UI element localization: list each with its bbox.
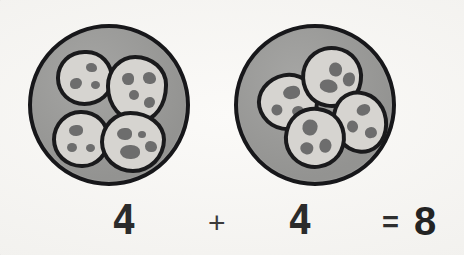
left-plate-cookie-4	[100, 111, 166, 173]
equation-plus-operator: +	[208, 208, 226, 238]
chocolate-chip-icon	[328, 62, 343, 78]
chocolate-chip-icon	[342, 72, 356, 88]
chocolate-chip-icon	[86, 63, 97, 72]
chocolate-chip-icon	[345, 119, 359, 134]
chocolate-chip-icon	[91, 81, 100, 89]
chocolate-chip-icon	[120, 145, 140, 159]
chocolate-chip-icon	[117, 128, 132, 140]
chocolate-chip-icon	[270, 103, 283, 116]
chocolate-chip-icon	[144, 97, 155, 108]
chocolate-chip-icon	[129, 90, 139, 100]
chocolate-chip-icon	[122, 73, 134, 85]
chocolate-chip-icon	[282, 84, 301, 100]
chocolate-chip-icon	[301, 118, 319, 137]
chocolate-chip-icon	[143, 72, 156, 84]
cookie-addition-illustration: 4 + 4 = 8	[0, 0, 464, 255]
left-plate-cookie-1	[56, 50, 114, 106]
left-plate	[28, 24, 190, 186]
chocolate-chip-icon	[318, 138, 333, 154]
equation-left-addend: 4	[112, 200, 135, 240]
chocolate-chip-icon	[70, 78, 82, 89]
chocolate-chip-icon	[138, 131, 146, 138]
chocolate-chip-icon	[67, 143, 77, 152]
chocolate-chip-icon	[299, 141, 315, 156]
equation-right-addend: 4	[288, 200, 311, 240]
chocolate-chip-icon	[145, 141, 157, 152]
equation-sum: 8	[414, 201, 436, 241]
chocolate-chip-icon	[319, 78, 339, 93]
chocolate-chip-icon	[69, 125, 83, 136]
equation-equals-operator: =	[382, 208, 399, 237]
chocolate-chip-icon	[363, 126, 378, 140]
right-plate	[234, 24, 396, 186]
chocolate-chip-icon	[86, 144, 95, 152]
chocolate-chip-icon	[355, 102, 372, 117]
